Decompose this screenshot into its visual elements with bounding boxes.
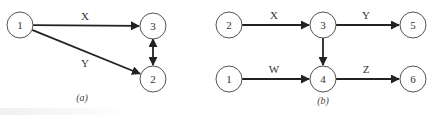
edge-label: Z bbox=[363, 63, 370, 75]
cropped-figure-caption bbox=[0, 108, 130, 115]
node-label: 1 bbox=[17, 19, 23, 31]
node-label: 3 bbox=[320, 19, 326, 31]
nodes-layer: 132235146 bbox=[7, 12, 426, 92]
node-a-1: 1 bbox=[7, 12, 33, 38]
node-label: 2 bbox=[226, 19, 232, 31]
edge-a-1-to-3 bbox=[33, 25, 139, 26]
edge-label: W bbox=[269, 63, 280, 75]
node-b-3: 3 bbox=[310, 12, 336, 38]
node-b-2: 2 bbox=[216, 12, 242, 38]
edge-label: X bbox=[81, 10, 89, 22]
edge-label: Y bbox=[81, 57, 89, 69]
network-diagrams: 132235146 XY(a)XYWZ(b) bbox=[0, 0, 434, 115]
caption-a: (a) bbox=[76, 92, 88, 104]
node-a-3: 3 bbox=[140, 13, 166, 39]
node-label: 6 bbox=[410, 73, 416, 85]
caption-b: (b) bbox=[317, 95, 329, 107]
node-b-1: 1 bbox=[216, 66, 242, 92]
edge-label: Y bbox=[362, 9, 370, 21]
node-label: 1 bbox=[226, 73, 232, 85]
node-label: 4 bbox=[320, 73, 326, 85]
node-label: 3 bbox=[150, 20, 156, 32]
node-label: 5 bbox=[410, 19, 416, 31]
node-b-4: 4 bbox=[310, 66, 336, 92]
node-label: 2 bbox=[150, 73, 156, 85]
edge-label: X bbox=[270, 9, 278, 21]
node-b-6: 6 bbox=[400, 66, 426, 92]
node-a-2: 2 bbox=[140, 66, 166, 92]
node-b-5: 5 bbox=[400, 12, 426, 38]
edges-layer bbox=[32, 25, 399, 79]
